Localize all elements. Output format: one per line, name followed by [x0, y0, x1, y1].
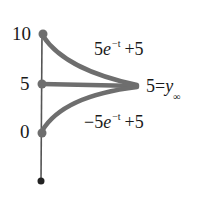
initial-point-0	[38, 129, 47, 138]
lower-curve-label: −5e−t+5	[84, 113, 144, 131]
upper-curve-label: 5e−t+5	[94, 40, 144, 58]
y-axis	[41, 34, 42, 181]
axis-end-dot	[38, 178, 45, 185]
tick-label-0: 0	[20, 122, 30, 141]
initial-point-10	[39, 30, 48, 39]
tick-label-5: 5	[20, 74, 30, 93]
equilibrium-line	[42, 84, 137, 86]
equilibrium-label: 5=y∞	[146, 77, 180, 99]
tick-label-10: 10	[12, 24, 31, 43]
initial-point-5	[38, 80, 47, 89]
